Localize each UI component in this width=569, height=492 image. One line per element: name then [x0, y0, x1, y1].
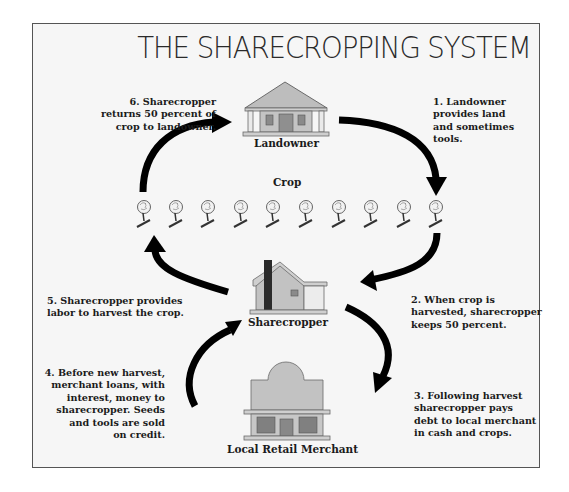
arrow-4-icon — [189, 330, 230, 406]
landowner-label: Landowner — [254, 137, 319, 149]
step-4-text: 4. Before new harvest,merchant loans, wi… — [45, 367, 165, 441]
merchant-label: Local Retail Merchant — [227, 443, 358, 455]
step-3-text: 3. Following harvestsharecropper paysdeb… — [414, 390, 536, 440]
arrow-2-icon — [370, 233, 437, 280]
arrow-1-icon — [339, 120, 436, 178]
cotton-plant-icon — [234, 201, 248, 228]
step-5-text: 5. Sharecropper provideslabor to harvest… — [47, 295, 184, 320]
cotton-plant-icon — [429, 201, 443, 228]
cotton-plant-icon — [299, 201, 313, 228]
landowner-house-icon — [243, 82, 329, 136]
sharecropper-house-icon — [250, 260, 327, 314]
cotton-plant-icon — [169, 201, 183, 228]
cotton-plant-icon — [201, 201, 215, 228]
cotton-plant-icon — [332, 201, 346, 228]
step-6-text: 6. Sharecropperreturns 50 percent ofcrop… — [101, 96, 216, 133]
cotton-plant-icon — [364, 201, 378, 228]
merchant-store-icon — [244, 362, 330, 440]
sharecropper-label: Sharecropper — [248, 316, 328, 328]
crop-row — [137, 201, 443, 228]
step-1-text: 1. Landownerprovides landand sometimesto… — [433, 96, 514, 146]
cotton-plant-icon — [137, 201, 151, 228]
cotton-plant-icon — [397, 201, 411, 228]
arrow-3-icon — [346, 307, 388, 376]
cotton-plant-icon — [266, 201, 280, 228]
arrow-5-icon — [155, 250, 228, 292]
step-2-text: 2. When crop isharvested, sharecropperke… — [411, 294, 542, 331]
crop-label: Crop — [273, 176, 301, 188]
